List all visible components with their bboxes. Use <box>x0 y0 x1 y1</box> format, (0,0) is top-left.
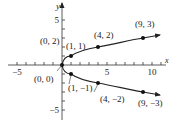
label-4-neg2: (4, −2) <box>100 94 125 104</box>
x-tick-label-10: 10 <box>148 67 158 77</box>
label-1-neg1: (1, −1) <box>68 83 93 93</box>
y-axis-label: y <box>55 1 60 11</box>
label-0-2: (0, 2) <box>40 36 60 46</box>
x-axis: −5 5 10 x <box>8 56 169 77</box>
x-axis-label: x <box>164 56 169 65</box>
point-9-3 <box>141 36 145 40</box>
x-tick-label-neg5: −5 <box>12 67 22 77</box>
x-tick-label-5: 5 <box>105 67 110 77</box>
label-9-neg3: (9, −3) <box>138 98 163 108</box>
label-4-2: (4, 2) <box>94 30 114 40</box>
parabola-chart: −5 5 10 x 5 −5 y <box>0 0 169 124</box>
label-0-0: (0, 0) <box>34 74 54 84</box>
point-9-neg3 <box>141 90 145 94</box>
point-1-1 <box>69 54 73 58</box>
y-tick-label-neg5: −5 <box>49 105 59 115</box>
label-9-3: (9, 3) <box>135 19 155 29</box>
label-1-1: (1, 1) <box>66 41 86 51</box>
y-tick-label-5: 5 <box>55 15 60 25</box>
y-axis: 5 −5 y <box>49 1 65 120</box>
point-4-2 <box>96 45 100 49</box>
